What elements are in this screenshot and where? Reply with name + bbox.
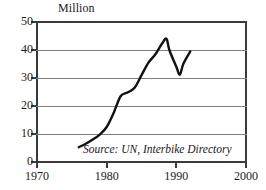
plot-frame-bottom	[36, 161, 247, 163]
x-tick-label-1970: 1970	[25, 169, 49, 184]
y-axis-unit-label: Million	[58, 1, 95, 16]
x-tick-label-2000: 2000	[234, 169, 258, 184]
y-tick-label-30: 30	[21, 70, 33, 85]
x-tick-1970	[36, 163, 38, 168]
plot-frame-top	[36, 21, 247, 23]
gridline-20	[36, 106, 247, 107]
source-annotation: Source: UN, Interbike Directory	[83, 143, 232, 155]
y-axis-line	[36, 21, 38, 163]
x-tick-1980	[106, 163, 108, 168]
x-tick-label-1990: 1990	[164, 169, 188, 184]
y-tick-label-0: 0	[27, 154, 33, 169]
plot-frame-right	[245, 21, 247, 163]
x-tick-label-1980: 1980	[95, 169, 119, 184]
y-tick-label-20: 20	[21, 98, 33, 113]
y-tick-label-40: 40	[21, 42, 33, 57]
plot-area	[36, 21, 247, 163]
gridline-10	[36, 134, 247, 135]
y-tick-label-10: 10	[21, 126, 33, 141]
y-tick-label-50: 50	[21, 14, 33, 29]
gridline-40	[36, 50, 247, 51]
gridline-30	[36, 78, 247, 79]
x-tick-1990	[175, 163, 177, 168]
x-tick-2000	[245, 163, 247, 168]
chart-figure: Million 01020304050 1970198019902000 Sou…	[0, 0, 266, 190]
